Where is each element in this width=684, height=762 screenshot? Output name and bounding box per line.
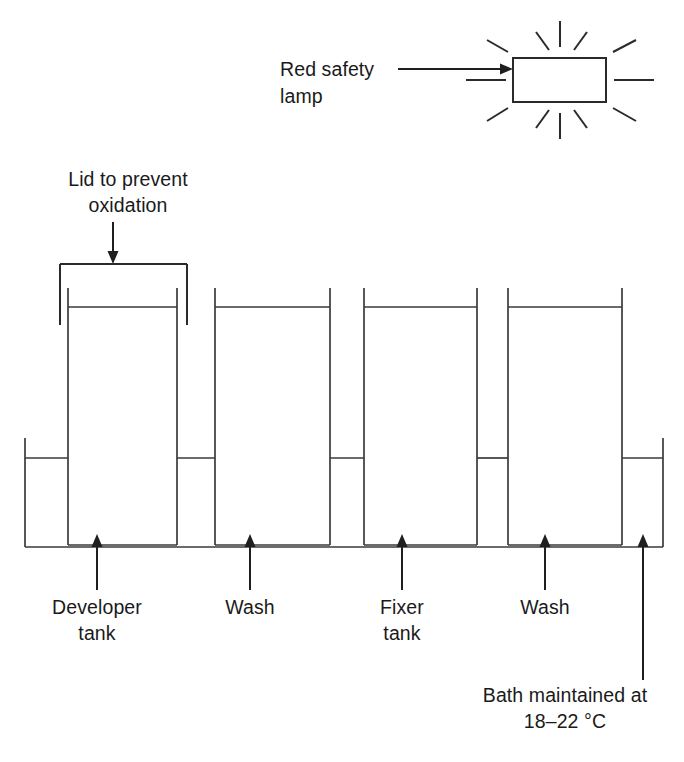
wash-tank-1-label-line1: Wash xyxy=(225,596,275,618)
water-bath-leader-arrow xyxy=(638,534,649,680)
safety-lamp-leader-arrow xyxy=(398,64,513,75)
developer-tank-leader-arrow xyxy=(92,534,103,590)
safety-lamp-label-line2: lamp xyxy=(280,85,323,107)
lamp-ray-upper-left xyxy=(487,40,508,52)
lamp-ray-upper-right xyxy=(613,40,636,52)
fixer-tank xyxy=(364,288,477,545)
wash-tank-2 xyxy=(508,288,622,545)
lamp-ray-lower-right xyxy=(613,108,636,121)
developer-tank-label-line2: tank xyxy=(78,622,115,644)
water-bath-label-line1: Bath maintained at xyxy=(483,684,648,706)
lamp-ray-top-right xyxy=(574,32,587,50)
lid-leader-arrow xyxy=(108,222,119,264)
wash-tank-2-label-line1: Wash xyxy=(520,596,570,618)
lamp-ray-top-left xyxy=(536,32,549,50)
lamp-ray-lower-left xyxy=(487,108,508,121)
wash-tank-2-leader-arrow xyxy=(540,534,551,590)
fixer-tank-leader-arrow xyxy=(397,534,408,590)
wash-tank-1-leader-arrow xyxy=(245,534,256,590)
fixer-tank-label-line1: Fixer xyxy=(380,596,424,618)
developer-tank xyxy=(68,288,177,545)
lamp-ray-bottom-left xyxy=(536,110,549,128)
lamp-body xyxy=(513,58,606,102)
red-safety-lamp-icon xyxy=(466,21,654,139)
wash-tank-1 xyxy=(215,288,330,545)
developer-tank-label-line1: Developer xyxy=(52,596,142,618)
lid-label-line2: oxidation xyxy=(89,194,168,216)
safety-lamp-label-line1: Red safety xyxy=(280,58,374,80)
developer-tank-lid xyxy=(60,264,187,325)
lamp-ray-bottom-right xyxy=(574,110,587,128)
film-processing-diagram: Red safety lamp Lid to prevent oxidation xyxy=(0,0,684,762)
diagram-canvas: Red safety lamp Lid to prevent oxidation xyxy=(0,0,684,762)
water-bath-label-line2: 18–22 °C xyxy=(524,710,606,732)
water-bath xyxy=(25,438,663,547)
lid-label-line1: Lid to prevent xyxy=(68,168,188,190)
fixer-tank-label-line2: tank xyxy=(383,622,420,644)
